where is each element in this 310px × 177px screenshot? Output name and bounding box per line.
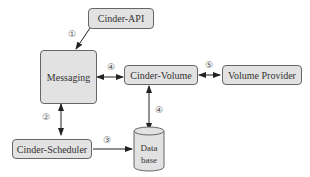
cinder-volume-node: Cinder-Volume: [124, 65, 198, 85]
step-5-label: ⑤: [205, 60, 213, 70]
step-3-label: ③: [103, 135, 111, 145]
database-node: Data base: [134, 142, 164, 166]
cinder-scheduler-node: Cinder-Scheduler: [12, 139, 92, 159]
messaging-node: Messaging: [40, 50, 97, 104]
step-1-label: ①: [68, 29, 76, 39]
step-4-label-volume-database: ④: [155, 105, 163, 115]
database-label-line1: Data: [134, 142, 164, 154]
step-2-label: ②: [42, 112, 50, 122]
volume-provider-node: Volume Provider: [222, 65, 302, 85]
database-label-line2: base: [134, 154, 164, 166]
step-4-label-messaging-volume: ④: [107, 62, 115, 72]
cinder-api-node: Cinder-API: [88, 8, 154, 29]
